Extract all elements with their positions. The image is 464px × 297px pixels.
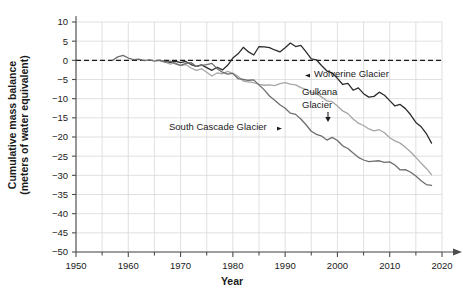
gulkana-pointer-arrowhead-icon: [325, 117, 330, 122]
annotation-south-cascade-glacier: South Cascade Glacier: [169, 121, 267, 132]
x-axis-tick-label: 1960: [118, 260, 139, 271]
plot-area: 1050−5−10−15−20−25−30−35−40−45−501950196…: [0, 0, 464, 297]
y-axis-tick-label: −5: [57, 74, 68, 85]
y-axis-tick-label: −15: [52, 112, 68, 123]
y-axis-tick-label: −50: [52, 246, 68, 257]
x-axis-tick-label: 1970: [170, 260, 191, 271]
x-axis-tick-label: 2000: [327, 260, 348, 271]
y-axis-tick-label: 5: [63, 36, 68, 47]
wolverine-pointer-left-triangle-icon: [305, 74, 310, 78]
x-axis-tick-label: 2010: [379, 260, 400, 271]
x-axis-tick-label: 1950: [65, 260, 86, 271]
y-axis-tick-label: −30: [52, 170, 68, 181]
annotation-wolverine-glacier: Wolverine Glacier: [314, 68, 389, 79]
glacier-mass-balance-chart: Cumulative mass balance (meters of water…: [0, 0, 464, 297]
y-axis-tick-label: 0: [63, 55, 68, 66]
y-axis-tick-label: −10: [52, 93, 68, 104]
y-axis-tick-label: −35: [52, 189, 68, 200]
x-axis-tick-label: 1980: [222, 260, 243, 271]
y-axis-tick-label: −45: [52, 227, 68, 238]
x-axis-label: Year: [0, 275, 464, 287]
y-axis-tick-label: −25: [52, 151, 68, 162]
south-cascade-pointer-right-triangle-icon: [277, 127, 282, 131]
x-axis-tick-label: 2020: [431, 260, 452, 271]
y-axis-tick-label: 10: [57, 16, 68, 27]
x-axis-arrow-icon: [453, 249, 462, 256]
y-axis-tick-label: −20: [52, 131, 68, 142]
x-axis-tick-label: 1990: [275, 260, 296, 271]
y-axis-tick-label: −40: [52, 208, 68, 219]
annotation-gulkana-line2: Glacier: [302, 99, 332, 110]
annotation-gulkana-line1: Gulkana: [302, 86, 338, 97]
